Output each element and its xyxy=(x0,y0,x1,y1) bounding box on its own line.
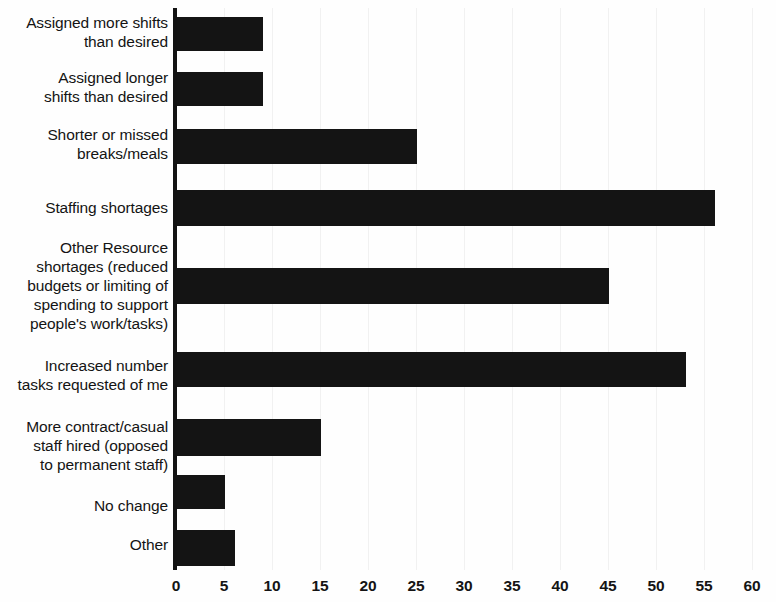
category-label-line: shifts than desired xyxy=(0,87,168,106)
bar xyxy=(177,129,417,164)
category-label-line: to permanent staff) xyxy=(0,455,168,474)
category-label-line: tasks requested of me xyxy=(0,375,168,394)
category-label: Assigned longershifts than desired xyxy=(0,68,168,106)
category-label: Other xyxy=(0,535,168,554)
x-tick-label: 50 xyxy=(636,576,676,596)
x-tick-label: 35 xyxy=(492,576,532,596)
x-tick-label: 60 xyxy=(732,576,772,596)
bar xyxy=(177,419,321,456)
category-label: Staffing shortages xyxy=(0,198,168,217)
x-tick-label: 10 xyxy=(252,576,292,596)
category-label-line: Shorter or missed xyxy=(0,125,168,144)
category-label-line: breaks/meals xyxy=(0,144,168,163)
bar xyxy=(177,72,263,106)
bar xyxy=(177,352,686,387)
horizontal-bar-chart: Assigned more shiftsthan desiredAssigned… xyxy=(0,0,776,602)
x-tick-label: 55 xyxy=(684,576,724,596)
category-label-line: More contract/casual xyxy=(0,417,168,436)
category-label-line: spending to support xyxy=(0,295,168,314)
bar xyxy=(177,190,715,226)
category-label-line: Assigned longer xyxy=(0,68,168,87)
category-label-line: Increased number xyxy=(0,356,168,375)
category-label-line: Staffing shortages xyxy=(0,198,168,217)
category-label-line: budgets or limiting of xyxy=(0,276,168,295)
category-label: More contract/casualstaff hired (opposed… xyxy=(0,417,168,474)
x-axis: 051015202530354045505560 xyxy=(0,570,776,602)
category-label-line: Other Resource xyxy=(0,238,168,257)
bar xyxy=(177,268,609,304)
category-label-line: No change xyxy=(0,496,168,515)
category-label-line: Assigned more shifts xyxy=(0,13,168,32)
x-tick-label: 30 xyxy=(444,576,484,596)
x-tick-label: 5 xyxy=(204,576,244,596)
x-tick-label: 40 xyxy=(540,576,580,596)
category-label-line: shortages (reduced xyxy=(0,257,168,276)
bar xyxy=(177,530,235,566)
x-tick-label: 25 xyxy=(396,576,436,596)
category-label-line: Other xyxy=(0,535,168,554)
x-tick-label: 15 xyxy=(300,576,340,596)
category-label-line: than desired xyxy=(0,32,168,51)
category-label: Increased numbertasks requested of me xyxy=(0,356,168,394)
bars-layer: Assigned more shiftsthan desiredAssigned… xyxy=(0,0,776,570)
category-label: Other Resourceshortages (reducedbudgets … xyxy=(0,238,168,333)
x-tick-label: 0 xyxy=(156,576,196,596)
bar xyxy=(177,475,225,509)
category-label: Assigned more shiftsthan desired xyxy=(0,13,168,51)
bar xyxy=(177,17,263,51)
category-label-line: people's work/tasks) xyxy=(0,314,168,333)
x-tick-label: 20 xyxy=(348,576,388,596)
category-label-line: staff hired (opposed xyxy=(0,436,168,455)
x-tick-label: 45 xyxy=(588,576,628,596)
category-label: Shorter or missedbreaks/meals xyxy=(0,125,168,163)
category-label: No change xyxy=(0,496,168,515)
